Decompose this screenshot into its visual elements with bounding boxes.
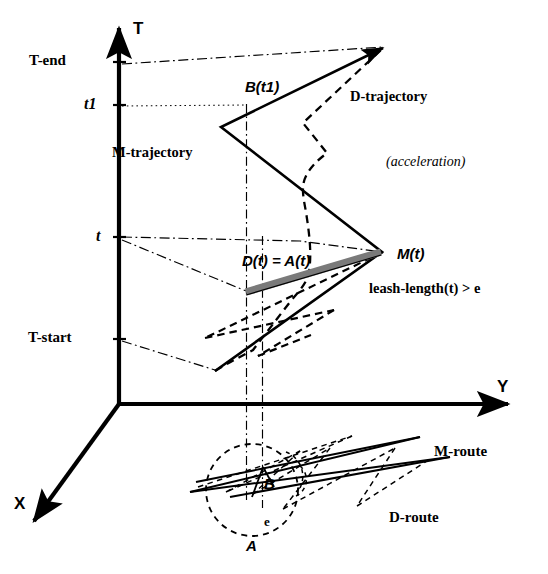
d-zigzag-seg-3 bbox=[205, 310, 334, 338]
perspective-guides bbox=[122, 47, 383, 370]
leash-condition-label: leash-length(t) > e bbox=[369, 281, 480, 296]
m-trajectory-label: M-trajectory bbox=[112, 145, 193, 160]
point-label-b-t1: B(t1) bbox=[245, 79, 279, 94]
point-label-a: A bbox=[246, 538, 257, 553]
tick-label-t: t bbox=[96, 228, 100, 244]
m-route-seg-4 bbox=[230, 457, 450, 497]
y-axis-label: Y bbox=[497, 378, 508, 395]
guide-t-end bbox=[122, 47, 383, 64]
d-route-path bbox=[198, 436, 430, 509]
d-route-seg-8 bbox=[357, 448, 395, 506]
guide-t-to-a bbox=[122, 240, 246, 291]
point-label-m-t: M(t) bbox=[397, 246, 424, 261]
d-route-seg-9 bbox=[357, 459, 430, 506]
t-axis-label: T bbox=[133, 20, 143, 37]
epsilon-arc-marks bbox=[286, 452, 306, 496]
diagram-canvas: T Y X T-end t1 t T-start M-trajectory D-… bbox=[0, 0, 548, 574]
guide-t-start bbox=[122, 341, 215, 370]
d-zigzag-seg-5 bbox=[258, 335, 311, 356]
d-trajectory-label: D-trajectory bbox=[350, 89, 427, 104]
epsilon-label: e bbox=[264, 515, 270, 528]
vertical-guide-lines bbox=[247, 104, 263, 508]
x-axis bbox=[34, 404, 119, 521]
guide-t-horizontal bbox=[122, 237, 382, 252]
tick-label-t-start: T-start bbox=[28, 330, 72, 345]
d-route-label: D-route bbox=[389, 510, 439, 525]
guide-t1 bbox=[122, 105, 247, 106]
tick-label-t1: t1 bbox=[84, 96, 96, 112]
x-axis-label: X bbox=[14, 495, 25, 512]
point-label-b: B bbox=[264, 476, 275, 491]
m-route-label: M-route bbox=[434, 444, 487, 459]
d-equals-a-label: D(t) = A(t) bbox=[242, 253, 310, 268]
acceleration-label: (acceleration) bbox=[386, 155, 465, 169]
tick-label-t-end: T-end bbox=[29, 53, 66, 68]
